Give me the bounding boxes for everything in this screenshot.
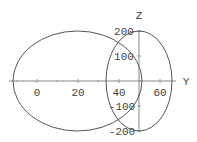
x-tick-label-0: 0: [34, 87, 41, 99]
x-tick-label-40: 40: [112, 87, 125, 99]
x-axis-label: Y: [183, 76, 190, 88]
x-tick-label-20: 20: [71, 87, 84, 99]
x-tick-label-60: 60: [153, 87, 166, 99]
z-tick-label-100: 100: [114, 51, 134, 63]
z-tick-label-neg200: -200: [109, 126, 135, 138]
z-tick-label-neg100: -100: [109, 101, 135, 113]
ellipse-plot: 0 20 40 60 200 100 -100 -200 Y Z: [0, 0, 197, 142]
z-axis-label: Z: [136, 10, 143, 22]
z-tick-label-200: 200: [114, 26, 134, 38]
